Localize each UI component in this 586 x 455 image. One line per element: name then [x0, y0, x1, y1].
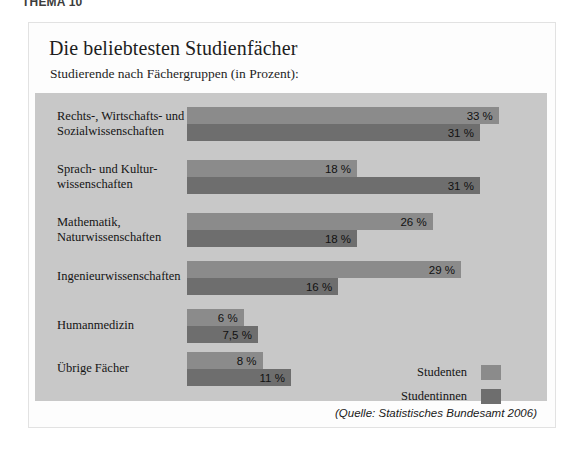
chart-bar-value: 31 %: [448, 127, 474, 139]
chart-bar-studentinnen: 31 %: [187, 124, 480, 141]
chart-plot-area: Rechts-, Wirtschafts- undSozialwissensch…: [35, 93, 547, 401]
chart-bar-group: 29 %16 %: [187, 261, 461, 295]
chart-bar-group: 18 %31 %: [187, 160, 480, 194]
chart-bar-value: 18 %: [325, 233, 351, 245]
chart-bar-group: 33 %31 %: [187, 107, 499, 141]
chart-source: (Quelle: Statistisches Bundesamt 2006): [335, 407, 537, 419]
chart-bar-value: 16 %: [306, 281, 332, 293]
chart-bar-studenten: 6 %: [187, 309, 244, 326]
chart-bar-value: 11 %: [260, 372, 285, 384]
chart-bar-value: 6 %: [218, 312, 238, 324]
legend-label-studenten: Studenten: [417, 365, 467, 380]
chart-bar-value: 33 %: [467, 110, 493, 122]
chart-bar-studentinnen: 11 %: [187, 369, 291, 386]
chart-bar-group: 6 %7,5 %: [187, 309, 258, 343]
chart-bar-studenten: 8 %: [187, 352, 263, 369]
legend-item-studentinnen: Studentinnen: [401, 389, 501, 404]
chart-bar-value: 29 %: [429, 264, 455, 276]
chart-bar-studenten: 18 %: [187, 160, 357, 177]
chart-bar-value: 7,5 %: [222, 329, 251, 341]
chart-bar-value: 8 %: [237, 355, 257, 367]
chart-title: Die beliebtesten Studienfächer: [49, 37, 297, 60]
legend-swatch-studentinnen: [481, 389, 501, 404]
chart-bar-studenten: 26 %: [187, 213, 433, 230]
legend-label-studentinnen: Studentinnen: [401, 389, 467, 404]
chart-bar-studenten: 29 %: [187, 261, 461, 278]
chart-bar-studentinnen: 7,5 %: [187, 326, 258, 343]
chart-bar-group: 26 %18 %: [187, 213, 433, 247]
chart-subtitle: Studierende nach Fächergruppen (in Proze…: [50, 66, 299, 82]
chart-bar-group: 8 %11 %: [187, 352, 291, 386]
chart-legend: Studenten Studentinnen: [401, 365, 501, 413]
chart-bar-studenten: 33 %: [187, 107, 499, 124]
chart-bar-studentinnen: 18 %: [187, 230, 357, 247]
legend-swatch-studenten: [481, 365, 501, 380]
page-header-fragment: THEMA 10: [22, 0, 142, 9]
page-header-text: THEMA 10: [22, 0, 142, 8]
chart-bar-value: 26 %: [400, 216, 426, 228]
chart-bar-value: 18 %: [325, 163, 351, 175]
legend-item-studenten: Studenten: [401, 365, 501, 380]
figure-card: Die beliebtesten Studienfächer Studieren…: [28, 22, 556, 428]
chart-bar-studentinnen: 16 %: [187, 278, 338, 295]
chart-bar-studentinnen: 31 %: [187, 177, 480, 194]
chart-bar-value: 31 %: [448, 180, 474, 192]
